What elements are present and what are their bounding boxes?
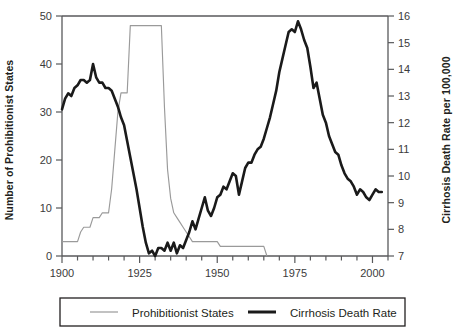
- y-tick-label-right: 13: [398, 90, 410, 102]
- plot-series: [62, 21, 382, 256]
- legend: Prohibitionist StatesCirrhosis Death Rat…: [60, 298, 405, 326]
- y-tick-label-right: 10: [398, 170, 410, 182]
- y-tick-label-right: 11: [398, 143, 409, 155]
- x-tick-label: 1900: [50, 267, 74, 279]
- y-tick-label-right: 16: [398, 10, 410, 22]
- y-tick-label-right: 14: [398, 63, 410, 75]
- y-tick-label-right: 12: [398, 117, 410, 129]
- right-axis-title: Cirrhosis Death Rate per 100,000: [440, 56, 452, 223]
- series-line-prohibitionist-states: [62, 26, 267, 256]
- x-tick-label: 2000: [360, 267, 384, 279]
- x-tick-label: 1950: [205, 267, 229, 279]
- legend-label-2: Cirrhosis Death Rate: [290, 307, 397, 319]
- y-tick-label-left: 30: [40, 106, 52, 118]
- y-tick-label-right: 8: [398, 223, 404, 235]
- y-tick-label-left: 20: [40, 154, 52, 166]
- y-tick-label-left: 40: [40, 58, 52, 70]
- y-tick-label-left: 10: [40, 202, 52, 214]
- y-tick-label-right: 15: [398, 37, 410, 49]
- y-tick-label-right: 7: [398, 250, 404, 262]
- x-tick-label: 1925: [127, 267, 151, 279]
- y-tick-label-right: 9: [398, 197, 404, 209]
- series-line-cirrhosis-death-rate: [62, 21, 382, 256]
- legend-label-1: Prohibitionist States: [132, 307, 234, 319]
- axes: 1900192519501975200001020304050789101112…: [40, 10, 411, 279]
- x-tick-label: 1975: [283, 267, 307, 279]
- y-tick-label-left: 0: [46, 250, 52, 262]
- cirrhosis-prohibition-chart: Number of Prohibitionist States Cirrhosi…: [0, 0, 462, 336]
- y-tick-label-left: 50: [40, 10, 52, 22]
- left-axis-title: Number of Prohibitionist States: [3, 60, 15, 221]
